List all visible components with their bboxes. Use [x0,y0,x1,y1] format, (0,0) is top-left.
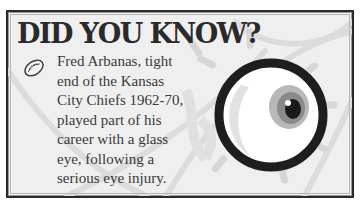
fact-line: end of the Kansas [57,73,164,89]
fact-line: Fred Arbanas, tight [57,53,172,69]
eyeball-icon [211,55,331,175]
fact-line: career with a glass [57,131,168,147]
fact-text: Fred Arbanas, tight end of the Kansas Ci… [57,52,197,189]
fact-line: serious eye injury. [57,170,166,186]
fact-line: City Chiefs 1962-70, [57,92,183,108]
football-icon [22,56,46,80]
fact-line: eye, following a [57,151,154,167]
fact-line: played part of his [57,112,162,128]
card-title: DID YOU KNOW? [17,20,260,47]
did-you-know-card: DID YOU KNOW? Fred Arbanas, tight end of… [6,10,354,198]
